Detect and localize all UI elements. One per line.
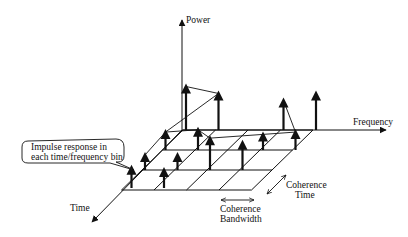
impulse-arrows <box>127 84 322 189</box>
impulse-arrowhead <box>205 135 215 145</box>
callout-line-1: Impulse response in <box>31 142 107 152</box>
time-axis-label: Time <box>70 203 90 213</box>
impulse-arrowhead <box>311 90 321 100</box>
impulse-arrow <box>279 97 289 130</box>
impulse-arrowhead <box>159 167 169 177</box>
impulse-arrow <box>238 140 248 170</box>
impulse-arrowhead <box>279 97 289 107</box>
impulse-arrow <box>140 152 150 170</box>
coherence-bandwidth-label-2: Bandwidth <box>220 214 262 224</box>
grid-column-line <box>219 130 281 190</box>
frequency-axis-label: Frequency <box>353 117 393 127</box>
impulse-arrowhead <box>161 129 171 139</box>
impulse-arrowhead <box>258 131 268 141</box>
impulse-arrowhead <box>291 129 301 139</box>
impulse-arrowhead <box>127 165 137 175</box>
coherence-bandwidth-label-1: Coherence <box>220 204 261 214</box>
coherence-time-arrow <box>267 175 286 194</box>
time-frequency-diagram: Power Frequency Time Impulse response in… <box>0 0 408 237</box>
envelope-line <box>166 87 219 133</box>
impulse-callout: Impulse response in each time/frequency … <box>22 139 134 170</box>
impulse-arrow <box>173 152 183 170</box>
impulse-arrowhead <box>238 140 248 150</box>
coherence-time-label-1: Coherence <box>286 180 327 190</box>
time-frequency-grid <box>122 130 314 190</box>
coherence-time-marker: Coherence Time <box>267 175 327 200</box>
coherence-bandwidth-marker: Coherence Bandwidth <box>220 200 262 224</box>
impulse-arrowhead <box>173 152 183 162</box>
callout-line-2: each time/frequency bin <box>31 152 123 162</box>
coherence-time-label-2: Time <box>295 190 315 200</box>
impulse-arrow <box>205 135 215 170</box>
power-axis-label: Power <box>186 15 211 25</box>
impulse-arrow <box>311 90 321 130</box>
grid-column-line <box>187 130 249 190</box>
impulse-arrowhead <box>140 152 150 162</box>
